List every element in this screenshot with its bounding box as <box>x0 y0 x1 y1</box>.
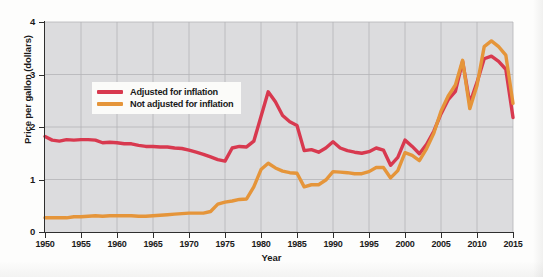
plot-area <box>45 22 513 232</box>
x-tick-label-1950: 1950 <box>25 239 65 249</box>
x-tick-label-1970: 1970 <box>169 239 209 249</box>
page-edge-shadow-right <box>533 0 543 277</box>
page-edge-shadow-bottom <box>0 261 543 277</box>
chart-legend: Adjusted for inflationNot adjusted for i… <box>92 82 241 114</box>
y-tick-4 <box>39 22 44 23</box>
x-tick-1975 <box>225 233 226 238</box>
y-tick-3 <box>39 75 44 76</box>
series-line-not-adjusted <box>45 41 513 218</box>
x-tick-label-1995: 1995 <box>349 239 389 249</box>
x-tick-1965 <box>153 233 154 238</box>
x-axis-line <box>44 232 514 233</box>
y-tick-1 <box>39 180 44 181</box>
legend-item-adjusted[interactable]: Adjusted for inflation <box>97 86 234 98</box>
x-tick-1970 <box>189 233 190 238</box>
x-tick-label-2000: 2000 <box>385 239 425 249</box>
legend-swatch-icon <box>97 90 123 94</box>
x-tick-label-1985: 1985 <box>277 239 317 249</box>
x-tick-label-1980: 1980 <box>241 239 281 249</box>
x-tick-label-1990: 1990 <box>313 239 353 249</box>
x-tick-label-1965: 1965 <box>133 239 173 249</box>
x-tick-2000 <box>405 233 406 238</box>
x-tick-1980 <box>261 233 262 238</box>
x-tick-1950 <box>45 233 46 238</box>
x-tick-1985 <box>297 233 298 238</box>
x-tick-label-2005: 2005 <box>421 239 461 249</box>
x-tick-1990 <box>333 233 334 238</box>
legend-item-not-adjusted[interactable]: Not adjusted for inflation <box>97 98 234 110</box>
legend-swatch-icon <box>97 102 123 106</box>
x-tick-2005 <box>441 233 442 238</box>
x-tick-label-1975: 1975 <box>205 239 245 249</box>
legend-label: Not adjusted for inflation <box>130 99 234 109</box>
y-tick-label-1: 1 <box>4 174 35 185</box>
x-tick-1960 <box>117 233 118 238</box>
x-tick-label-1960: 1960 <box>97 239 137 249</box>
x-tick-1995 <box>369 233 370 238</box>
y-tick-0 <box>39 232 44 233</box>
x-tick-2015 <box>513 233 514 238</box>
y-tick-label-0: 0 <box>4 226 35 237</box>
y-tick-2 <box>39 127 44 128</box>
x-tick-label-2010: 2010 <box>457 239 497 249</box>
x-tick-label-2015: 2015 <box>493 239 533 249</box>
x-tick-1955 <box>81 233 82 238</box>
y-axis-line <box>44 21 45 233</box>
x-tick-label-1955: 1955 <box>61 239 101 249</box>
data-series-layer <box>45 22 513 232</box>
legend-label: Adjusted for inflation <box>130 87 218 97</box>
y-axis-title: Price per gallon (dollars) <box>22 10 33 170</box>
chart-figure: 01234 1950195519601965197019751980198519… <box>0 0 543 277</box>
x-tick-2010 <box>477 233 478 238</box>
